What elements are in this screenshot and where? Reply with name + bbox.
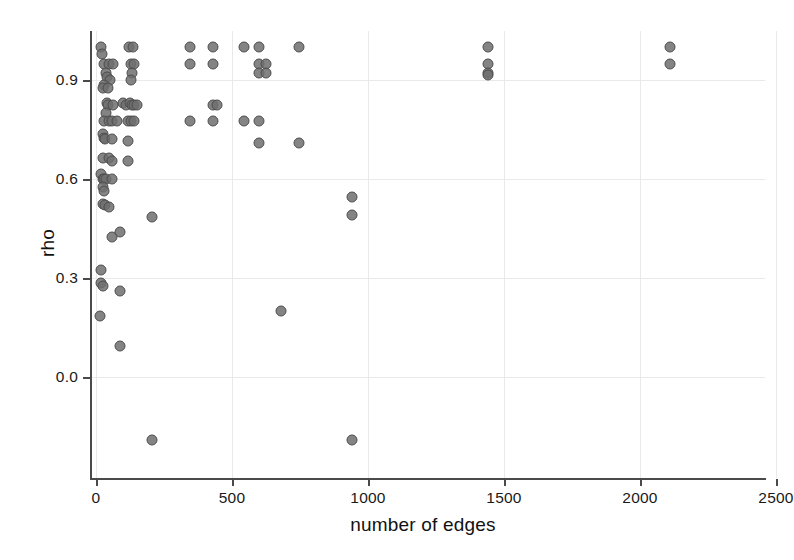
data-point — [346, 210, 357, 221]
data-point — [275, 306, 286, 317]
data-point — [127, 42, 138, 53]
data-point — [123, 136, 134, 147]
scatter-plot-figure: 05001000150020002500 0.00.30.60.9 number… — [0, 0, 794, 560]
y-tick-mark — [83, 278, 90, 280]
y-axis-line — [90, 31, 92, 479]
data-point — [184, 58, 195, 69]
data-point — [261, 68, 272, 79]
x-tick-label: 500 — [219, 489, 245, 507]
data-point — [346, 192, 357, 203]
x-axis-label-text: number of edges — [350, 514, 496, 535]
x-tick-mark — [368, 479, 370, 486]
gridline-horizontal — [91, 179, 765, 180]
gridline-vertical — [504, 31, 505, 478]
data-point — [254, 42, 265, 53]
data-point — [482, 42, 493, 53]
data-point — [114, 340, 125, 351]
x-axis-label: number of edges — [0, 514, 794, 536]
data-point — [664, 58, 675, 69]
data-point — [146, 434, 157, 445]
data-point — [107, 155, 118, 166]
gridline-vertical — [96, 31, 97, 478]
x-tick-mark — [232, 479, 234, 486]
data-point — [95, 310, 106, 321]
x-tick-mark — [776, 479, 778, 486]
data-point — [207, 58, 218, 69]
plot-area — [90, 31, 765, 479]
gridline-vertical — [232, 31, 233, 478]
data-point — [207, 116, 218, 127]
x-axis-line — [90, 478, 766, 480]
data-point — [293, 42, 304, 53]
data-point — [112, 116, 123, 127]
data-point — [99, 185, 110, 196]
data-point — [239, 116, 250, 127]
y-tick-label: 0.3 — [56, 269, 78, 287]
data-point — [129, 116, 140, 127]
x-tick-label: 2500 — [758, 489, 793, 507]
data-point — [346, 434, 357, 445]
data-point — [254, 116, 265, 127]
data-point — [239, 42, 250, 53]
gridline-vertical — [368, 31, 369, 478]
gridline-horizontal — [91, 278, 765, 279]
data-point — [115, 286, 126, 297]
x-tick-mark — [96, 479, 98, 486]
data-point — [106, 174, 117, 185]
data-point — [212, 99, 223, 110]
x-tick-mark — [504, 479, 506, 486]
data-point — [184, 116, 195, 127]
data-point — [293, 137, 304, 148]
gridline-vertical — [776, 31, 777, 478]
data-point — [107, 58, 118, 69]
y-tick-label: 0.9 — [56, 71, 78, 89]
data-point — [207, 42, 218, 53]
data-point — [98, 281, 109, 292]
x-tick-label: 1000 — [350, 489, 385, 507]
data-point — [126, 75, 137, 86]
data-point — [96, 264, 107, 275]
gridline-vertical — [640, 31, 641, 478]
data-point — [104, 202, 115, 213]
y-tick-mark — [83, 377, 90, 379]
data-point — [106, 134, 117, 145]
y-tick-label: 0.6 — [56, 170, 78, 188]
x-tick-mark — [640, 479, 642, 486]
data-point — [254, 137, 265, 148]
data-point — [123, 155, 134, 166]
data-point — [114, 226, 125, 237]
data-point — [131, 99, 142, 110]
data-point — [184, 42, 195, 53]
data-point — [664, 42, 675, 53]
y-tick-mark — [83, 179, 90, 181]
x-tick-label: 1500 — [486, 489, 521, 507]
data-point — [146, 211, 157, 222]
data-point — [482, 70, 493, 81]
gridline-horizontal — [91, 377, 765, 378]
data-point — [102, 83, 113, 94]
x-tick-label: 0 — [92, 489, 101, 507]
y-axis-label: rho — [37, 183, 59, 303]
y-tick-label: 0.0 — [56, 368, 78, 386]
y-tick-mark — [83, 80, 90, 82]
x-tick-label: 2000 — [622, 489, 657, 507]
gridline-horizontal — [91, 80, 765, 81]
